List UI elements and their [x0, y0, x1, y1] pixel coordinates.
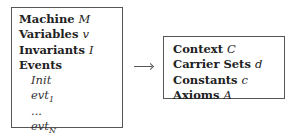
event-init: Init	[19, 73, 122, 88]
variables-keyword: Variables	[19, 27, 78, 41]
context-keyword: Context	[173, 42, 223, 56]
carrier-sets-line: Carrier Setsd	[173, 57, 284, 72]
invariants-keyword: Invariants	[19, 43, 85, 57]
axioms-keyword: Axioms	[173, 88, 219, 102]
event-name: evt1	[31, 88, 54, 102]
events-keyword: Events	[19, 58, 62, 72]
machine-keyword: Machine	[19, 12, 75, 26]
context-line: ContextC	[173, 42, 284, 57]
axioms-name: A	[223, 88, 231, 102]
machine-name: M	[79, 12, 91, 26]
axioms-line: AxiomsA	[173, 88, 284, 103]
event-name: Init	[31, 73, 51, 87]
event-name: evtN	[31, 119, 56, 133]
constants-keyword: Constants	[173, 73, 238, 87]
constants-line: Constantsc	[173, 73, 284, 88]
machine-line: MachineM	[19, 12, 122, 27]
context-name: C	[227, 42, 236, 56]
sees-arrow-icon	[134, 66, 152, 67]
event-1: evt1	[19, 88, 122, 103]
event-n: evtN	[19, 119, 122, 134]
carrier-sets-name: d	[255, 57, 262, 71]
variables-line: Variablesv	[19, 27, 122, 42]
machine-box: MachineM Variablesv InvariantsI Events I…	[11, 7, 123, 128]
constants-name: c	[242, 73, 248, 87]
carrier-sets-keyword: Carrier Sets	[173, 57, 251, 71]
invariants-line: InvariantsI	[19, 43, 122, 58]
invariants-name: I	[89, 43, 94, 57]
event-name: ...	[31, 104, 42, 118]
events-line: Events	[19, 58, 122, 73]
event-ellipsis: ...	[19, 104, 122, 119]
context-box: ContextC Carrier Setsd Constantsc Axioms…	[163, 36, 285, 99]
variables-name: v	[82, 27, 89, 41]
